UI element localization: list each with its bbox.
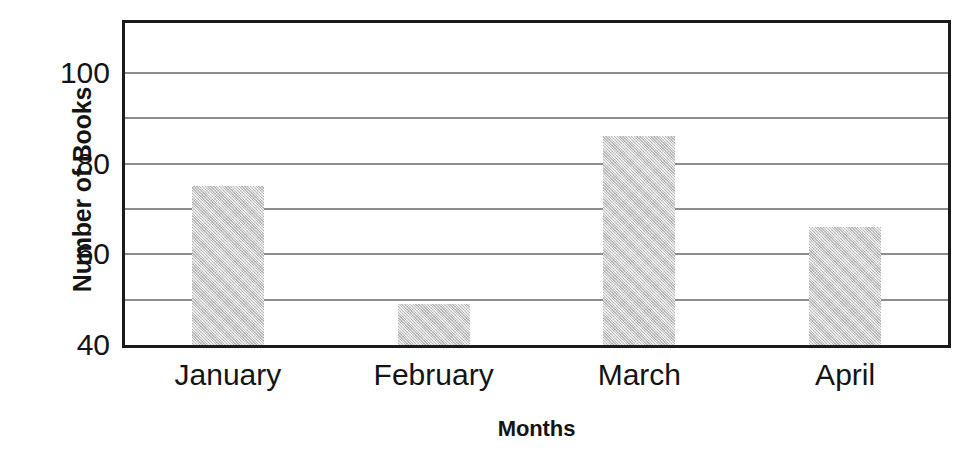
bar-april[interactable] (809, 227, 881, 345)
x-tick-label-april: April (815, 358, 875, 392)
y-tick-label-60: 60 (34, 237, 110, 271)
y-tick-label-80: 80 (34, 147, 110, 181)
x-axis-tick-labels: JanuaryFebruaryMarchApril (122, 358, 951, 400)
y-axis-tick-labels: 406080100 (34, 0, 110, 467)
plot-area (122, 20, 951, 348)
x-tick-label-february: February (374, 358, 494, 392)
y-tick-label-40: 40 (34, 328, 110, 362)
bar-march[interactable] (603, 136, 675, 345)
bar-february[interactable] (398, 304, 470, 345)
y-tick-label-100: 100 (34, 56, 110, 90)
x-axis-title: Months (122, 416, 951, 442)
bar-january[interactable] (192, 186, 264, 345)
gridline-80 (125, 163, 948, 165)
x-tick-label-january: January (175, 358, 282, 392)
bar-chart-figure: Number of Books 406080100 JanuaryFebruar… (0, 0, 958, 467)
x-tick-label-march: March (598, 358, 681, 392)
gridline-100 (125, 72, 948, 74)
gridline-90 (125, 117, 948, 119)
plot-inner (125, 23, 948, 345)
